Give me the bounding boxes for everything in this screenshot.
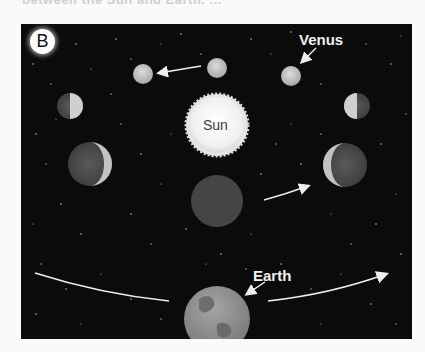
venus-middle-right	[323, 143, 367, 187]
venus-top-left	[133, 64, 153, 84]
panel-label-badge: B	[30, 29, 55, 54]
venus-top-right	[281, 66, 301, 86]
venus-middle-left	[61, 142, 112, 186]
venus-pointer-arrow	[302, 48, 316, 62]
diagram-graphics	[21, 24, 412, 339]
venus-top-center	[207, 58, 227, 78]
venus-new	[191, 175, 243, 227]
orbit-arc-left	[35, 273, 169, 301]
cutoff-caption: between the Sun and Earth. ...	[22, 0, 412, 6]
venus-upper-right	[344, 93, 370, 119]
sun-label: Sun	[203, 117, 228, 133]
arrow-top	[159, 66, 201, 73]
venus-label: Venus	[299, 31, 343, 48]
earth-label: Earth	[253, 267, 291, 284]
venus-phases-diagram: B Venus Sun Earth	[21, 24, 412, 339]
earth	[184, 286, 250, 339]
venus-upper-left	[57, 93, 83, 119]
arrow-right-middle	[264, 186, 308, 200]
